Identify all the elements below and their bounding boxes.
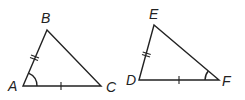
triangle-abc: A B C xyxy=(7,10,117,95)
vertex-label-d: D xyxy=(126,72,136,88)
angle-arc-f xyxy=(205,71,208,80)
vertex-label-b: B xyxy=(41,10,50,26)
diagram-canvas: A B C D E F xyxy=(0,0,245,100)
triangle-def: D E F xyxy=(126,6,232,89)
vertex-label-e: E xyxy=(149,6,159,22)
angle-arc-a xyxy=(29,73,38,86)
vertex-label-c: C xyxy=(106,79,117,95)
vertex-label-a: A xyxy=(7,78,17,94)
vertex-label-f: F xyxy=(222,73,232,89)
